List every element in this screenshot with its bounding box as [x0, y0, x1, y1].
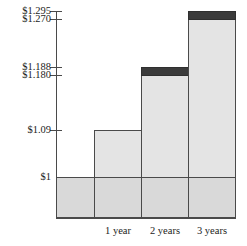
y-tick-109: [50, 130, 62, 131]
y-tick-1188: [50, 67, 62, 68]
y-tick-label-109: $1.09: [27, 125, 51, 135]
y-axis-line: [56, 11, 57, 219]
x-axis-line: [56, 218, 236, 219]
y-tick-label-1: $1: [41, 172, 52, 182]
cell-divider-3: [188, 177, 189, 219]
y-tick-1295: [50, 11, 62, 12]
y-tick-label-1180: $1.180: [22, 70, 51, 80]
cell-divider-1: [94, 177, 95, 219]
y-tick-1270: [50, 19, 62, 20]
bar-3-years-body: [188, 19, 236, 178]
bar-2-years-cap: [141, 67, 189, 76]
x-label-1-year: 1 year: [94, 225, 142, 236]
x-label-3-years: 3 years: [188, 225, 236, 236]
y-tick-label-1270: $1.270: [22, 14, 51, 24]
compound-interest-bar-chart: $1.295 $1.270 $1.188 $1.180 $1.09 $1 1 y…: [0, 0, 247, 246]
bar-1-year-body: [94, 130, 142, 178]
bar-3-years-cap: [188, 11, 236, 20]
y-tick-1180: [50, 75, 62, 76]
cell-divider-2: [141, 177, 142, 219]
principal-baseline-line: [56, 177, 236, 178]
bar-2-years-body: [141, 75, 189, 178]
x-label-2-years: 2 years: [141, 225, 189, 236]
below-baseline-band: [56, 177, 236, 218]
